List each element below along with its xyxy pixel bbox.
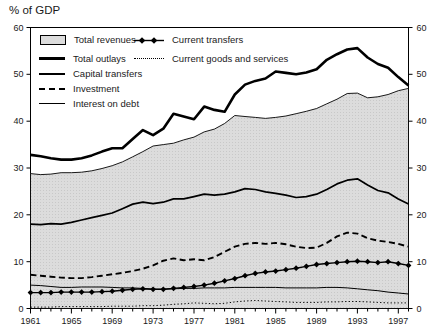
x-axis-label: 1961 (20, 316, 40, 326)
chart-canvas: 0010102020303040405050606019611965196919… (0, 0, 433, 336)
total-revenues-area-swatch-icon (40, 35, 66, 45)
y-axis-label-right: 50 (417, 69, 427, 79)
y-axis-label-left: 50 (13, 69, 23, 79)
x-axis-label: 1965 (61, 316, 81, 326)
x-axis-label: 1997 (388, 316, 408, 326)
y-axis-label-right: 40 (417, 116, 427, 126)
legend-label: Current transfers (172, 34, 243, 45)
thick-line-swatch-icon (39, 57, 65, 60)
diamond-line-swatch-icon (134, 31, 164, 49)
x-axis-label: 1969 (102, 316, 122, 326)
y-axis-label-left: 20 (13, 210, 23, 220)
thin-line-swatch-icon (39, 103, 65, 104)
x-axis-label: 1977 (184, 316, 204, 326)
medium-line-swatch-icon (39, 73, 65, 75)
y-axis-label-left: 0 (18, 304, 23, 314)
legend-item-total-outlays: Total outlays (39, 53, 126, 64)
y-axis-label-left: 60 (13, 23, 23, 33)
y-axis-label-right: 30 (417, 163, 427, 173)
y-axis-label-right: 10 (417, 257, 427, 267)
legend-item-total-revenues: Total revenues (40, 34, 136, 45)
y-axis-label-left: 10 (13, 257, 23, 267)
legend-label: Total revenues (74, 34, 136, 45)
y-axis-label-left: 30 (13, 163, 23, 173)
legend-item-investment: Investment (39, 83, 119, 94)
legend-label: Investment (73, 83, 119, 94)
legend-label: Current goods and services (172, 53, 288, 64)
x-axis-label: 1973 (143, 316, 163, 326)
x-axis-label: 1981 (225, 316, 245, 326)
y-axis-label-right: 20 (417, 210, 427, 220)
legend-label: Interest on debt (73, 98, 139, 109)
legend-label: Total outlays (73, 53, 126, 64)
x-axis-label: 1993 (347, 316, 367, 326)
y-axis-label-left: 40 (13, 116, 23, 126)
legend-item-current-transfers: Current transfers (134, 34, 243, 45)
y-axis-label-right: 60 (417, 23, 427, 33)
x-axis-label: 1985 (266, 316, 286, 326)
x-axis-label: 1989 (307, 316, 327, 326)
legend-item-current-goods-services: Current goods and services (134, 53, 288, 64)
chart-svg: 0010102020303040405050606019611965196919… (0, 0, 433, 336)
legend-item-capital-transfers: Capital transfers (39, 68, 142, 79)
dotted-line-swatch-icon (134, 58, 164, 59)
y-axis-label-right: 0 (417, 304, 422, 314)
dashed-line-swatch-icon (39, 88, 65, 90)
legend-item-interest-on-debt: Interest on debt (39, 98, 139, 109)
legend-label: Capital transfers (73, 68, 142, 79)
figure: % of GDP 0010102020303040405050606019611… (0, 0, 433, 336)
